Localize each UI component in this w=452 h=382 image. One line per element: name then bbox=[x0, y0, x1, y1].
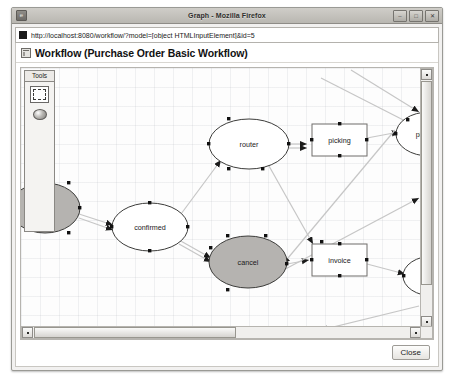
node-cancel[interactable]: cancel bbox=[209, 234, 288, 291]
editor-wrapper: draft confirmed bbox=[16, 63, 438, 340]
window-titlebar[interactable]: e Graph - Mozilla Firefox – □ ✕ bbox=[12, 8, 442, 24]
scroll-up-arrow-icon[interactable] bbox=[421, 69, 432, 80]
node-picking[interactable]: picking bbox=[310, 122, 368, 157]
node-picking-2[interactable]: pickin bbox=[394, 112, 421, 156]
graph-edges bbox=[27, 70, 419, 328]
maximize-button[interactable]: □ bbox=[409, 10, 423, 22]
close-button[interactable]: Close bbox=[392, 345, 430, 360]
node-confirmed[interactable]: confirmed bbox=[110, 201, 189, 252]
page-header: Workflow (Purchase Order Basic Workflow) bbox=[16, 43, 438, 63]
url-text[interactable]: http://localhost:8080/workflow/?model=[o… bbox=[31, 32, 255, 39]
vertical-scrollbar[interactable] bbox=[420, 68, 433, 328]
screen: e Graph - Mozilla Firefox – □ ✕ http://l… bbox=[0, 0, 452, 382]
graph-editor[interactable]: draft confirmed bbox=[20, 67, 434, 340]
window-title: Graph - Mozilla Firefox bbox=[12, 12, 442, 19]
tools-palette[interactable]: Tools bbox=[24, 70, 55, 232]
scroll-left-arrow-icon[interactable] bbox=[22, 327, 33, 338]
workflow-icon bbox=[21, 48, 31, 58]
minimize-button[interactable]: – bbox=[393, 10, 407, 22]
horizontal-scroll-thumb[interactable] bbox=[34, 327, 236, 338]
page-footer: Close bbox=[16, 340, 438, 366]
vertical-scroll-thumb[interactable] bbox=[421, 81, 432, 285]
horizontal-scrollbar[interactable] bbox=[21, 326, 422, 339]
node-label-invoice: invoice bbox=[328, 256, 350, 265]
page-icon bbox=[19, 31, 27, 39]
page-title: Workflow (Purchase Order Basic Workflow) bbox=[35, 47, 248, 59]
firefox-icon: e bbox=[16, 10, 27, 21]
ellipse-tool-icon bbox=[33, 109, 47, 120]
rectangle-tool[interactable] bbox=[30, 86, 49, 103]
node-label-confirmed: confirmed bbox=[134, 223, 166, 232]
graph-svg: draft confirmed bbox=[21, 68, 421, 328]
window-controls: – □ ✕ bbox=[393, 10, 440, 22]
close-window-button[interactable]: ✕ bbox=[425, 10, 439, 22]
rectangle-tool-icon bbox=[33, 89, 46, 100]
location-bar[interactable]: http://localhost:8080/workflow/?model=[o… bbox=[15, 27, 439, 43]
node-label-picking: picking bbox=[328, 136, 350, 145]
tools-title: Tools bbox=[25, 71, 54, 82]
node-invoice[interactable]: invoice bbox=[310, 240, 368, 277]
graph-nodes: draft confirmed bbox=[21, 112, 421, 296]
browser-window: e Graph - Mozilla Firefox – □ ✕ http://l… bbox=[11, 7, 443, 371]
page-content: Workflow (Purchase Order Basic Workflow) bbox=[15, 43, 439, 367]
graph-canvas[interactable]: draft confirmed bbox=[21, 68, 422, 328]
node-label-cancel: cancel bbox=[238, 258, 259, 267]
ellipse-tool[interactable] bbox=[31, 107, 48, 122]
node-label-router: router bbox=[240, 140, 259, 149]
node-extra[interactable] bbox=[402, 256, 421, 296]
scrollbar-corner bbox=[420, 326, 433, 339]
